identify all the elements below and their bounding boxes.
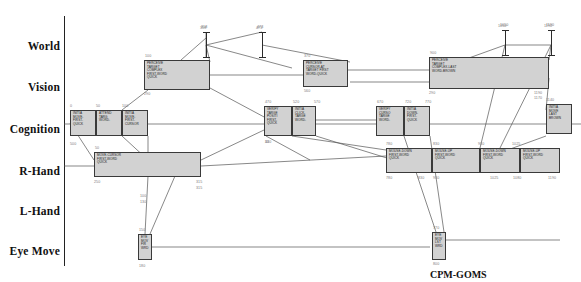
time-tick-label: 570 <box>314 100 320 104</box>
time-tick-label: 470 <box>265 100 271 104</box>
operator-box-text: VERIFY TARGE POSITI FIRST- QUICK <box>267 108 290 126</box>
operator-box-text: EYE MOV LST WRD <box>435 234 444 248</box>
time-tick-label: 290 <box>429 91 435 95</box>
time-tick-label: 780 <box>386 176 392 180</box>
marker-cap-bottom <box>259 57 266 58</box>
time-tick-label: 50 <box>95 146 99 150</box>
operator-box-text: PERCEIVE TARGET COMPLEX-LAST WORD-BROWN <box>432 59 547 73</box>
time-tick-label: 1190 <box>548 176 556 180</box>
time-tick-label: 0 <box>70 104 72 108</box>
operator-box-text: INITIA DOWN- FIRST- QUICK <box>407 108 428 122</box>
time-tick-label: 130 <box>140 200 146 204</box>
time-tick-label: 930 <box>433 176 439 180</box>
row-label-world: World <box>28 40 60 52</box>
cpm-goms-schedule-chart: WorldVisionCognitionR-HandL-HandEye Move… <box>0 0 581 282</box>
time-tick-label: 315 <box>196 186 202 190</box>
dependency-link <box>150 176 175 234</box>
operator-box-text: PERCEIVE CURSOR-AT TARGET FIRST WORD-QUI… <box>306 62 346 76</box>
operator-box-text: VERIFY CURSO TARGE WORD- <box>379 108 402 122</box>
operator-box-eyemove[interactable]: EYE MOV FIR WRD <box>138 234 152 260</box>
operator-box-rhand[interactable]: MOVE-CURSOR FIRST-WORD QUICK <box>94 152 201 177</box>
time-tick-label: 1050 <box>498 24 506 28</box>
operator-box-text: INITIA MOVE- FIRST- CURSOR <box>125 112 146 126</box>
time-tick-label: 1025 <box>512 142 520 146</box>
time-tick-label: 770 <box>433 226 439 230</box>
operator-box-cognition[interactable]: INITIA DOWN- FIRST- QUICK <box>404 106 430 136</box>
time-tick-label: 100 <box>145 54 151 58</box>
operator-box-text: MOVE-CURSOR FIRST-WORD QUICK <box>97 154 199 165</box>
vertical-axis-rule <box>64 16 65 266</box>
operator-box-text: INITIA MOVE- FIRST- QUICK <box>73 112 94 126</box>
operator-box-eyemove[interactable]: EYE MOV LST WRD <box>432 232 446 260</box>
dependency-link <box>201 130 264 160</box>
time-tick-label: 50 <box>96 104 100 108</box>
time-tick-label: 315 <box>196 180 202 184</box>
row-label-lhand: L-Hand <box>20 205 60 217</box>
marker-stem <box>551 30 552 56</box>
row-label-cognition: Cognition <box>10 123 60 135</box>
time-tick-label: 900 <box>430 51 436 55</box>
time-tick-label: 930 <box>478 142 484 146</box>
time-tick-label: 1190 <box>534 91 542 95</box>
operator-box-rhand[interactable]: MOUSE-DOWN FIRST-WORD QUICK <box>480 148 520 173</box>
dependency-link <box>201 156 386 166</box>
time-tick-label: 180 <box>139 264 145 268</box>
row-label-vision: Vision <box>28 81 60 93</box>
operator-box-cognition[interactable]: ATTEND TARG WORD- <box>96 110 122 136</box>
operator-box-cognition[interactable]: VERIFY CURSO TARGE WORD- <box>376 106 404 136</box>
time-tick-label: 1190 <box>544 24 552 28</box>
operator-box-cognition[interactable]: VERIFY TARGE POSITI FIRST- QUICK <box>264 106 292 136</box>
dependency-link <box>292 136 386 150</box>
time-tick-label: 780 <box>386 142 392 146</box>
time-tick-label: 100 <box>140 194 146 198</box>
dependency-link-layer <box>0 0 581 282</box>
dependency-link <box>266 136 310 160</box>
operator-box-text: INITIA MOVE LAST BROWN <box>549 106 570 120</box>
marker-cap-bottom <box>203 57 210 58</box>
operator-box-rhand[interactable]: MOUSE-UP FIRST-WORD QUICK <box>432 148 480 173</box>
time-tick-label: 1025 <box>490 176 498 180</box>
time-tick-label: 1170 <box>534 96 542 100</box>
time-tick-label: 830 <box>418 176 424 180</box>
time-tick-label: 500 <box>70 142 76 146</box>
operator-box-text: PERCEIVE TARGET COMPLEX FIRST-WORD QUICK <box>147 62 208 80</box>
operator-box-rhand[interactable]: MOUSE-UP FIRST-WORD QUICK <box>520 148 560 173</box>
operator-box-text: MOUSE-DOWN FIRST-WORD QUICK <box>389 150 430 161</box>
dependency-link <box>145 176 148 234</box>
operator-box-rhand[interactable]: MOUSE-DOWN FIRST-WORD QUICK <box>386 148 432 173</box>
operator-box-cognition[interactable]: INITIA MOVE LAST BROWN <box>546 104 572 134</box>
operator-box-cognition[interactable]: INITIA MOVE- FIRST- CURSOR <box>122 110 148 136</box>
time-tick-label: 720 <box>405 100 411 104</box>
time-tick-label: 290 <box>144 92 150 96</box>
dependency-link <box>210 88 266 118</box>
marker-stem <box>262 32 263 58</box>
operator-box-vision[interactable]: PERCEIVE TARGET COMPLEX-LAST WORD-BROWN <box>429 57 549 89</box>
operator-box-text: MOUSE-DOWN FIRST-WORD QUICK <box>483 150 518 161</box>
dependency-link <box>206 32 262 45</box>
time-tick-label: 800 <box>433 262 439 266</box>
row-label-rhand: R-Hand <box>19 165 60 177</box>
operator-box-vision[interactable]: PERCEIVE CURSOR-AT TARGET FIRST WORD-QUI… <box>303 60 348 87</box>
time-tick-label: 770 <box>425 100 431 104</box>
time-tick-label: 670 <box>377 100 383 104</box>
time-tick-label: 560 <box>304 89 310 93</box>
figure-caption: CPM-GOMS <box>430 269 487 280</box>
dependency-link <box>206 45 292 68</box>
row-label-eyemove: Eye Move <box>10 245 60 257</box>
time-tick-label: 473 <box>256 26 262 30</box>
time-tick-label: 830 <box>433 142 439 146</box>
operator-box-cognition[interactable]: INITIA MOVE- FIRST- QUICK <box>70 110 96 136</box>
marker-stem <box>206 32 207 58</box>
time-tick-label: 1140 <box>546 98 554 102</box>
time-tick-label: 520 <box>293 100 299 104</box>
operator-box-cognition[interactable]: INITIA CLICK- TARGE WORD- <box>292 106 316 136</box>
operator-box-vision[interactable]: PERCEIVE TARGET COMPLEX FIRST-WORD QUICK <box>144 60 210 90</box>
marker-stem <box>505 30 506 56</box>
operator-box-text: ATTEND TARG WORD- <box>99 112 120 123</box>
operator-box-text: INITIA CLICK- TARGE WORD- <box>295 108 314 122</box>
time-tick-label: 150 <box>139 228 145 232</box>
time-tick-label: 50 <box>265 140 269 144</box>
time-tick-label: 370 <box>304 54 310 58</box>
marker-cap-bottom <box>548 55 555 56</box>
time-tick-label: 318 <box>200 26 206 30</box>
